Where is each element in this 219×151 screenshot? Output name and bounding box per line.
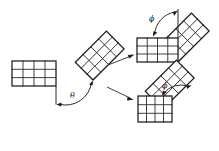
theta-label: θ xyxy=(70,91,75,100)
theta-arrow-head-right xyxy=(89,81,93,86)
top-result-base-grid xyxy=(137,38,178,62)
branch-arrow-up-head xyxy=(128,55,135,59)
theta-angle-arc: θ xyxy=(56,81,93,107)
original-grid xyxy=(12,61,56,86)
branch-arrow-down-head xyxy=(127,96,134,100)
top-phi-label: ϕ xyxy=(149,14,155,23)
bottom-result-base-grid xyxy=(138,96,172,122)
branch-arrow-down xyxy=(107,87,134,100)
theta-arrow-head-left xyxy=(56,103,61,107)
figure-root: θ xyxy=(0,0,219,151)
rotation-diagram: θ xyxy=(0,0,219,151)
bottom-result: ϕ xyxy=(138,60,194,122)
bottom-phi-arrow-head-upper xyxy=(186,85,191,89)
top-phi-arrow-head-lower xyxy=(153,31,158,36)
top-result: ϕ xyxy=(137,9,209,62)
top-phi-arrow-head-upper xyxy=(173,10,178,15)
theta-rotated-grid xyxy=(75,31,124,80)
bottom-phi-label: ϕ xyxy=(162,81,168,90)
